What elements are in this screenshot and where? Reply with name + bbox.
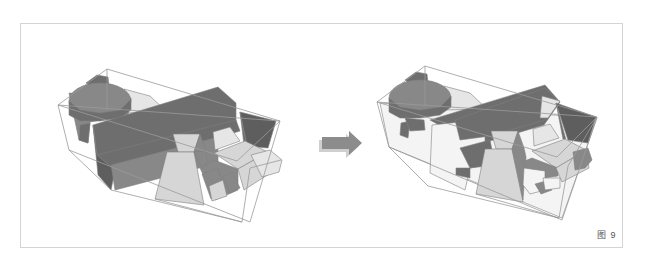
- massing-model-subtracted: [377, 66, 597, 220]
- massing-face: [543, 178, 560, 190]
- arrow-right-icon: [319, 131, 362, 158]
- figure-canvas: [0, 0, 657, 264]
- massing-model-original: [58, 69, 282, 222]
- figure-caption: 图 9: [597, 228, 617, 241]
- massing-face: [79, 123, 90, 143]
